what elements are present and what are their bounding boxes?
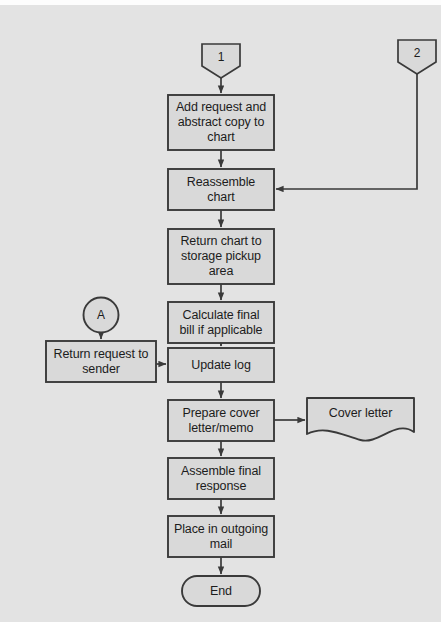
offpage-connector-2-shape[interactable]: [398, 40, 436, 74]
offpage-connector-1-shape[interactable]: [202, 44, 240, 78]
process-prepare-cover-shape[interactable]: [168, 400, 274, 441]
process-assemble-response-shape[interactable]: [168, 458, 274, 499]
flowchart-page: 1 2 Add request and abstract copy to cha…: [0, 0, 441, 622]
process-update-log-shape[interactable]: [168, 348, 274, 382]
process-add-request-shape[interactable]: [168, 95, 274, 150]
process-reassemble-chart-shape[interactable]: [168, 169, 274, 210]
edge-conn2-to-reassemble: [276, 74, 417, 189]
process-return-request-shape[interactable]: [46, 341, 156, 382]
terminator-end-shape[interactable]: [182, 576, 260, 606]
shapes-layer: [46, 40, 436, 606]
process-calculate-bill-shape[interactable]: [168, 302, 274, 343]
document-cover-letter-shape[interactable]: [307, 398, 414, 441]
connector-a-shape[interactable]: [84, 298, 119, 333]
flowchart-canvas: [0, 0, 441, 622]
process-place-mail-shape[interactable]: [168, 516, 274, 557]
process-return-chart-shape[interactable]: [168, 229, 274, 284]
